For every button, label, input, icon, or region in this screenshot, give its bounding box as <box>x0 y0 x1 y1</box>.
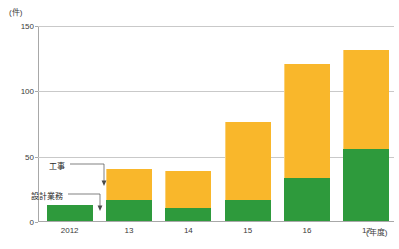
bar-segment-design[interactable] <box>165 208 211 221</box>
y-axis-tick <box>35 222 38 223</box>
y-axis-tick <box>35 91 38 92</box>
x-axis-tick-label: 13 <box>106 226 152 235</box>
bar-segment-construction[interactable] <box>343 50 389 149</box>
y-axis-tick-label: 0 <box>30 218 34 227</box>
bar-segment-construction[interactable] <box>284 64 330 178</box>
annotation-label-construction: 工事 <box>49 160 65 171</box>
y-axis-tick-label: 150 <box>21 22 34 31</box>
plot-area: 050100150 <box>38 26 394 222</box>
bar-segment-construction[interactable] <box>165 171 211 208</box>
x-axis-tick-label: 14 <box>165 226 211 235</box>
x-axis-tick-label: 15 <box>225 226 271 235</box>
bar-segment-design[interactable] <box>343 149 389 221</box>
x-axis-line <box>38 221 394 222</box>
y-axis-unit-label: (件) <box>9 6 22 17</box>
bar-segment-construction[interactable] <box>106 169 152 200</box>
gridline <box>38 91 394 92</box>
bar-segment-design[interactable] <box>47 205 93 221</box>
bar-group[interactable] <box>47 205 93 221</box>
bar-group[interactable] <box>225 122 271 221</box>
x-axis-tick-label: 2012 <box>47 226 93 235</box>
stacked-bar-chart: (件) 050100150 20121314151617 (年度) 工事 設計業… <box>0 0 399 249</box>
x-axis-unit-label: (年度) <box>366 226 387 237</box>
gridline <box>38 157 394 158</box>
bar-group[interactable] <box>343 50 389 221</box>
bar-segment-construction[interactable] <box>225 122 271 200</box>
bar-group[interactable] <box>165 171 211 221</box>
annotation-label-design: 設計業務 <box>31 190 63 201</box>
y-axis-tick <box>35 26 38 27</box>
bar-segment-design[interactable] <box>106 200 152 221</box>
bar-group[interactable] <box>106 169 152 221</box>
y-axis-tick-label: 100 <box>21 87 34 96</box>
y-axis-tick-label: 50 <box>25 152 34 161</box>
y-axis-tick <box>35 157 38 158</box>
gridline <box>38 26 394 27</box>
x-axis-tick-label: 16 <box>284 226 330 235</box>
bar-segment-design[interactable] <box>225 200 271 221</box>
bar-group[interactable] <box>284 64 330 221</box>
bar-segment-design[interactable] <box>284 178 330 221</box>
